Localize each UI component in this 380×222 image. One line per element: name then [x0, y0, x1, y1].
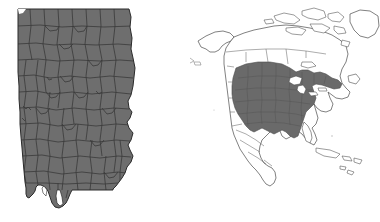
newfoundland-outline	[348, 74, 360, 84]
north-america-locator-panel: North America	[190, 0, 380, 222]
state-shaded-fill	[0, 0, 190, 222]
alabama-county-map-svg	[0, 0, 190, 222]
range-map-figure: Alabama	[0, 0, 380, 222]
state-county-map-panel: Alabama	[0, 0, 190, 222]
state-body	[0, 0, 190, 222]
greenland-outline	[350, 10, 379, 38]
lake-ontario	[318, 88, 327, 91]
caribbean-islands	[316, 148, 362, 175]
north-america-range-map-svg	[190, 0, 380, 222]
aleutian-islands	[190, 58, 201, 65]
